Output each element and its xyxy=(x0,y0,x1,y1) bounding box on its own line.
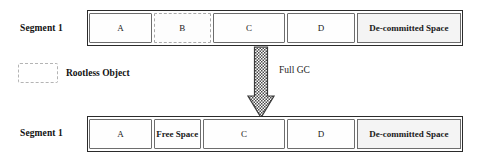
memory-cell-free-space: Free Space xyxy=(154,119,201,149)
memory-cell-decommitted-before: De-committed Space xyxy=(357,13,461,43)
memory-cell-c-before: C xyxy=(213,13,286,43)
memory-cell-a-after: A xyxy=(89,119,152,149)
segment-label-after: Segment 1 xyxy=(20,128,63,138)
memory-cell-d-before: D xyxy=(287,13,355,43)
memory-cell-decommitted-after: De-committed Space xyxy=(357,119,461,149)
memory-cell-label: Free Space xyxy=(156,129,198,140)
memory-cell-label: A xyxy=(117,129,124,140)
legend: Rootless Object xyxy=(18,63,130,83)
memory-cell-c-after: C xyxy=(203,119,286,149)
memory-cell-label: C xyxy=(241,129,247,140)
memory-cell-label: De-committed Space xyxy=(369,129,448,140)
memory-cell-label: A xyxy=(117,23,124,34)
memory-cell-label: B xyxy=(179,23,185,34)
memory-cell-label: D xyxy=(318,23,325,34)
memory-cell-b-rootless: B xyxy=(154,13,211,43)
memory-cell-d-after: D xyxy=(287,119,355,149)
segment-label-before: Segment 1 xyxy=(20,23,63,33)
full-gc-caption: Full GC xyxy=(279,65,310,75)
memory-cell-label: D xyxy=(318,129,325,140)
memory-cell-a-before: A xyxy=(89,13,152,43)
gc-compaction-diagram: Segment 1 A B C D De-committed Space Roo… xyxy=(0,0,483,159)
memory-cell-label: De-committed Space xyxy=(369,23,448,34)
memory-bar-after: A Free Space C D De-committed Space xyxy=(87,116,463,152)
legend-swatch-rootless-icon xyxy=(18,63,58,83)
memory-bar-before: A B C D De-committed Space xyxy=(87,10,463,46)
full-gc-arrow-icon xyxy=(246,46,276,119)
legend-label: Rootless Object xyxy=(66,68,130,78)
memory-cell-label: C xyxy=(246,23,252,34)
